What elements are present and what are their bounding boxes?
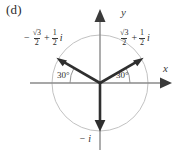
real-numerator: √3	[32, 29, 42, 37]
argand-diagram-figure	[0, 0, 184, 156]
real-denominator: 2	[121, 38, 127, 47]
imaginary-unit: i	[147, 32, 150, 43]
vector-upper-left-arrowhead	[56, 58, 67, 67]
imag-denominator: 2	[139, 38, 145, 47]
label-upper-right-complex-number: √3 2 + 1 2 i	[118, 29, 150, 47]
angle-label-left: 30°	[57, 70, 70, 80]
minus-sign: −	[24, 32, 30, 43]
vector-upper-right-arrowhead	[133, 58, 144, 67]
y-axis-label: y	[121, 6, 126, 18]
real-numerator: √3	[119, 29, 129, 37]
real-part-fraction: √3 2	[32, 29, 42, 47]
imag-part-fraction: 1 2	[52, 29, 58, 47]
plus-sign: +	[131, 32, 137, 43]
angle-arc-left	[70, 68, 74, 83]
y-axis-arrowhead	[95, 9, 106, 22]
x-axis-label: x	[163, 62, 168, 74]
x-axis-arrowhead	[160, 78, 172, 89]
angle-label-right: 30°	[116, 70, 129, 80]
part-label: (d)	[6, 2, 22, 18]
imag-denominator: 2	[52, 38, 58, 47]
real-denominator: 2	[34, 38, 40, 47]
imaginary-unit: i	[60, 32, 63, 43]
vector-down-arrowhead	[95, 120, 106, 132]
label-bottom-complex-number: − i	[79, 133, 91, 144]
label-upper-left-complex-number: − √3 2 + 1 2 i	[24, 29, 62, 47]
imag-numerator: 1	[139, 29, 145, 37]
real-part-fraction: √3 2	[119, 29, 129, 47]
plus-sign: +	[44, 32, 50, 43]
imag-part-fraction: 1 2	[139, 29, 145, 47]
imag-numerator: 1	[52, 29, 58, 37]
